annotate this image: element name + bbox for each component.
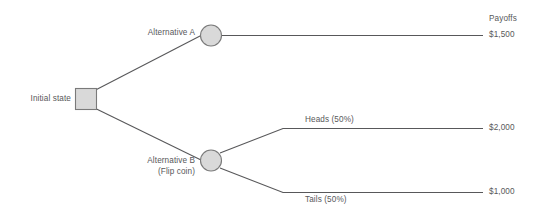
edge-initial-to-alternative-b (97, 109, 202, 160)
node-initial-state[interactable] (76, 89, 97, 110)
payoff-alternative-a: $1,500 (489, 29, 547, 40)
label-initial-state: Initial state (0, 93, 71, 104)
node-alternative-a[interactable] (201, 25, 222, 46)
label-payoffs-header: Payoffs (489, 13, 547, 24)
payoff-heads: $2,000 (489, 122, 547, 133)
edge-alternative-b-heads (220, 129, 483, 154)
label-branch-heads: Heads (50%) (305, 114, 425, 125)
edge-initial-to-alternative-a (97, 36, 202, 90)
label-branch-tails: Tails (50%) (305, 194, 425, 205)
edge-alternative-b-tails (220, 168, 483, 193)
decision-tree-graphics (0, 0, 547, 219)
payoff-tails: $1,000 (489, 186, 547, 197)
label-alternative-a: Alternative A (118, 27, 195, 38)
label-alternative-b-sublabel: (Flip coin) (115, 166, 195, 177)
label-alternative-b-block: Alternative B (Flip coin) (115, 155, 195, 177)
label-alternative-b: Alternative B (115, 155, 195, 166)
decision-tree-diagram: Initial state Alternative A Alternative … (0, 0, 547, 219)
node-alternative-b[interactable] (201, 150, 222, 171)
